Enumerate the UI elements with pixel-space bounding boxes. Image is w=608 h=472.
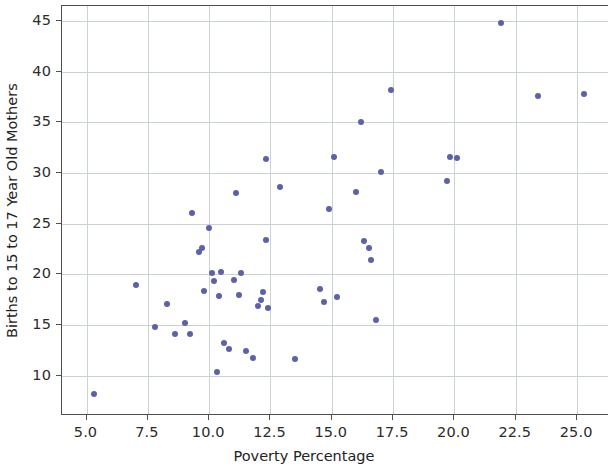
y-tick-label: 45 (19, 12, 51, 28)
data-point (211, 278, 217, 284)
data-point (187, 331, 193, 337)
y-axis-label: Births to 15 to 17 Year Old Mothers (4, 83, 20, 338)
x-tick-mark (576, 415, 577, 420)
y-tick-mark (56, 121, 61, 122)
x-tick-label: 7.5 (135, 424, 158, 440)
y-tick-mark (56, 71, 61, 72)
gridline-vertical (209, 6, 210, 414)
y-tick-label: 10 (19, 367, 51, 383)
x-tick-label: 12.5 (253, 424, 286, 440)
x-tick-label: 15.0 (314, 424, 347, 440)
data-point (250, 355, 256, 361)
data-point (206, 225, 212, 231)
data-point (152, 324, 158, 330)
data-point (243, 348, 249, 354)
gridline-horizontal (62, 72, 608, 73)
data-point (199, 245, 205, 251)
data-point (378, 169, 384, 175)
data-point (255, 303, 261, 309)
y-tick-mark (56, 375, 61, 376)
gridline-horizontal (62, 376, 608, 377)
gridline-horizontal (62, 325, 608, 326)
data-point (331, 154, 337, 160)
y-tick-label: 40 (19, 63, 51, 79)
gridline-vertical (577, 6, 578, 414)
data-point (317, 286, 323, 292)
data-point (498, 20, 504, 26)
data-point (236, 292, 242, 298)
x-tick-label: 5.0 (74, 424, 97, 440)
y-tick-mark (56, 273, 61, 274)
data-point (447, 154, 453, 160)
gridline-vertical (270, 6, 271, 414)
y-tick-mark (56, 223, 61, 224)
data-point (368, 257, 374, 263)
gridline-horizontal (62, 122, 608, 123)
data-point (91, 391, 97, 397)
gridline-horizontal (62, 224, 608, 225)
data-point (214, 369, 220, 375)
x-axis-label: Poverty Percentage (0, 448, 608, 464)
gridline-vertical (516, 6, 517, 414)
x-tick-mark (392, 415, 393, 420)
data-point (218, 269, 224, 275)
data-point (258, 297, 264, 303)
data-point (353, 189, 359, 195)
data-point (358, 119, 364, 125)
data-point (260, 289, 266, 295)
data-point (388, 87, 394, 93)
x-tick-mark (147, 415, 148, 420)
y-tick-label: 20 (19, 265, 51, 281)
gridline-horizontal (62, 173, 608, 174)
data-point (172, 331, 178, 337)
y-tick-label: 35 (19, 113, 51, 129)
data-point (366, 245, 372, 251)
data-point (581, 91, 587, 97)
x-tick-mark (269, 415, 270, 420)
y-tick-mark (56, 20, 61, 21)
gridline-horizontal (62, 21, 608, 22)
x-tick-mark (208, 415, 209, 420)
data-point (189, 210, 195, 216)
data-point (133, 282, 139, 288)
x-tick-mark (331, 415, 332, 420)
data-point (233, 190, 239, 196)
plot-area (61, 5, 608, 415)
gridline-horizontal (62, 274, 608, 275)
gridline-vertical (87, 6, 88, 414)
y-tick-label: 25 (19, 215, 51, 231)
data-point (216, 293, 222, 299)
x-tick-mark (86, 415, 87, 420)
data-point (292, 356, 298, 362)
scatter-plot-figure: 5.07.510.012.515.017.520.022.525.0 10152… (0, 0, 608, 472)
data-point (277, 184, 283, 190)
x-tick-mark (453, 415, 454, 420)
x-tick-label: 10.0 (192, 424, 225, 440)
x-tick-label: 17.5 (376, 424, 409, 440)
data-point (263, 237, 269, 243)
x-tick-label: 22.5 (498, 424, 531, 440)
data-point (265, 305, 271, 311)
data-point (454, 155, 460, 161)
gridline-vertical (393, 6, 394, 414)
data-point (209, 270, 215, 276)
x-tick-label: 20.0 (437, 424, 470, 440)
y-tick-label: 30 (19, 164, 51, 180)
data-point (373, 317, 379, 323)
data-point (221, 340, 227, 346)
data-point (326, 206, 332, 212)
y-tick-mark (56, 172, 61, 173)
data-point (334, 294, 340, 300)
y-tick-label: 15 (19, 316, 51, 332)
gridline-vertical (454, 6, 455, 414)
data-point (238, 270, 244, 276)
x-tick-mark (515, 415, 516, 420)
data-point (226, 346, 232, 352)
x-tick-label: 25.0 (560, 424, 593, 440)
data-point (263, 156, 269, 162)
gridline-vertical (148, 6, 149, 414)
data-point (361, 238, 367, 244)
y-tick-mark (56, 324, 61, 325)
data-point (182, 320, 188, 326)
data-point (444, 178, 450, 184)
